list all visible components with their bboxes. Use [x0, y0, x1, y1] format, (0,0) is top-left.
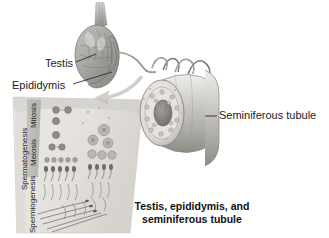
- label-spermiogenesis: Spermiogenesis: [29, 176, 37, 233]
- seminiferous-tubule-art: [140, 70, 219, 166]
- label-mitosis: Mitosis: [30, 103, 38, 128]
- label-epididymis: Epididymis: [12, 80, 65, 91]
- label-meiosis: Meiosis: [30, 139, 38, 166]
- label-seminiferous-tubule: Seminiferous tubule: [219, 110, 316, 121]
- figure-caption: Testis, epididymis, and seminiferous tub…: [122, 200, 262, 226]
- caption-line-1: Testis, epididymis, and: [122, 200, 262, 213]
- label-testis: Testis: [45, 58, 73, 69]
- caption-line-2: seminiferous tubule: [122, 213, 262, 226]
- anatomy-figure: Testis Epididymis Seminiferous tubule Sp…: [0, 0, 329, 238]
